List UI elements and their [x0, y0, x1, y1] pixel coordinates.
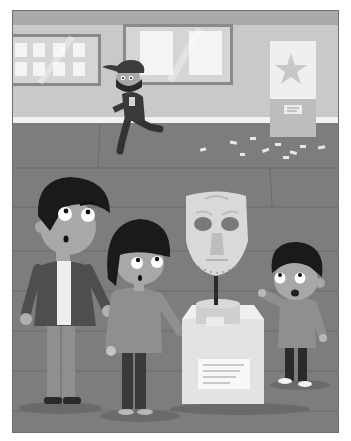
shirt	[57, 261, 71, 325]
museum-scene	[13, 11, 339, 433]
wall-top-band	[13, 11, 339, 25]
small-label	[206, 317, 224, 326]
star-poster	[270, 41, 316, 137]
mask-stand	[214, 273, 218, 305]
pedestal-placard	[198, 359, 250, 389]
left-display-frame	[13, 34, 101, 86]
poster-label	[284, 105, 302, 114]
illustration-frame	[12, 10, 339, 433]
